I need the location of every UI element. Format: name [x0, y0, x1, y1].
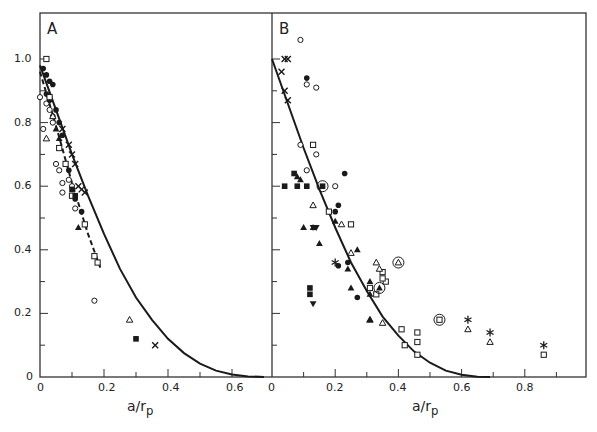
data-point-circle-filled	[79, 209, 85, 215]
data-point-circle-open	[37, 95, 42, 100]
x-tick-label: 0	[37, 381, 44, 394]
data-point-circled-square-open	[434, 314, 445, 325]
data-point-square-open	[415, 352, 420, 357]
data-point-triangle-filled	[348, 284, 355, 290]
data-point-triangle-filled	[53, 125, 60, 131]
data-point-square-filled	[294, 183, 300, 189]
data-point-triangle-filled	[354, 246, 361, 252]
data-point-triangle-down-filled	[310, 301, 317, 307]
data-point-square-open	[367, 285, 372, 290]
data-point-asterisk	[540, 341, 547, 349]
data-point-circle-filled	[355, 295, 361, 301]
data-point-triangle-filled	[316, 240, 323, 246]
panel-b-plot	[272, 37, 556, 377]
data-point-triangle-open	[487, 339, 493, 345]
panel-a-plot	[37, 56, 264, 377]
data-point-x	[285, 56, 291, 62]
data-point-triangle-open	[465, 326, 471, 332]
x-tick-label: 0	[268, 381, 275, 394]
data-point-x	[152, 342, 158, 348]
data-point-triangle-open	[310, 202, 316, 208]
x-tick-label: 0.6	[226, 381, 244, 394]
data-point-square-open	[402, 343, 407, 348]
data-point-triangle-filled	[300, 224, 307, 230]
panel-b-letter: B	[279, 20, 289, 38]
x-tick-label: 0.6	[453, 381, 471, 394]
data-point-square-filled	[307, 285, 313, 291]
data-point-circle-open	[92, 298, 97, 303]
theory-curve	[40, 65, 264, 377]
data-point-asterisk	[487, 328, 494, 336]
data-point-triangle-open	[348, 250, 354, 256]
data-point-square-open	[399, 327, 404, 332]
data-point-circle-filled	[56, 120, 62, 126]
x-axis-label-text: a/r	[412, 398, 431, 414]
data-point-circle-open	[66, 177, 71, 182]
data-point-circle-open	[314, 152, 319, 157]
data-point-square-open	[310, 142, 315, 147]
data-point-circle-open	[314, 85, 319, 90]
data-point-circle-open	[47, 107, 52, 112]
x-axis-label-sub: p	[146, 404, 153, 418]
data-point-circle-open	[298, 37, 303, 42]
data-point-triangle-filled	[75, 224, 82, 230]
data-point-circle-open	[333, 184, 338, 189]
data-point-square-open	[415, 339, 420, 344]
data-point-square-open	[95, 260, 100, 265]
data-point-square-filled	[282, 183, 288, 189]
data-point-asterisk	[464, 316, 471, 324]
y-tick-label: 0.2	[14, 306, 32, 319]
x-axis-label-a: a/rp	[127, 398, 153, 418]
data-point-circle-filled	[53, 107, 59, 113]
data-point-circle-open	[41, 126, 46, 131]
data-point-circle-open	[53, 161, 58, 166]
data-point-square-filled	[304, 183, 310, 189]
data-point-circle-open	[304, 168, 309, 173]
y-tick-label: 0.4	[14, 243, 32, 256]
data-point-triangle-filled	[367, 278, 374, 284]
data-point-circle-filled	[345, 260, 351, 266]
x-axis-label-text: a/r	[127, 398, 146, 414]
data-point-circle-open	[60, 190, 65, 195]
data-point-square-open	[348, 222, 353, 227]
x-tick-label: 0.4	[162, 381, 180, 394]
data-point-circle-open	[73, 206, 78, 211]
data-point-triangle-open	[338, 221, 344, 227]
data-point-square-open	[541, 352, 546, 357]
data-point-x	[282, 56, 288, 62]
x-axis-label-b: a/rp	[412, 398, 438, 418]
data-point-square-filled	[69, 187, 75, 193]
y-tick-label: 0.6	[14, 179, 32, 192]
data-point-circle-open	[50, 120, 55, 125]
data-point-circle-open	[60, 180, 65, 185]
data-point-circle-filled	[342, 171, 348, 177]
data-point-square-open	[415, 330, 420, 335]
y-tick-label: 1.0	[14, 52, 32, 65]
data-point-circle-filled	[66, 168, 72, 174]
data-point-triangle-open	[373, 259, 379, 265]
data-point-square-open	[92, 254, 97, 259]
data-point-square-filled	[72, 193, 78, 199]
y-tick-label: 0.8	[14, 116, 32, 129]
data-point-square-filled	[307, 292, 313, 298]
x-axis-label-sub: p	[431, 404, 438, 418]
data-point-triangle-filled	[344, 265, 351, 271]
data-point-circled-triangle-open	[393, 257, 404, 268]
data-point-circle-filled	[332, 209, 338, 215]
panel-a-letter: A	[47, 20, 57, 38]
data-point-circle-open	[304, 82, 309, 87]
data-point-triangle-open	[376, 266, 382, 272]
x-tick-label: 0.2	[98, 381, 116, 394]
x-tick-label: 0.8	[516, 381, 534, 394]
data-point-circled-triangle-filled	[374, 282, 385, 293]
x-tick-label: 0.4	[389, 381, 407, 394]
data-point-square-filled	[133, 336, 139, 342]
data-point-square-open	[63, 161, 68, 166]
y-tick-label: 0	[26, 370, 33, 383]
data-point-triangle-open	[126, 316, 132, 322]
data-point-circle-filled	[40, 66, 46, 72]
data-point-square-open	[380, 276, 385, 281]
data-point-triangle-open	[43, 135, 49, 141]
data-point-circle-filled	[50, 82, 56, 88]
figure-chart	[0, 0, 597, 432]
